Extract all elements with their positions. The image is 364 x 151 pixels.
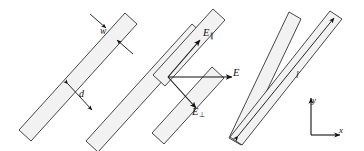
figure-canvas: [0, 0, 364, 151]
label-axis-x: x: [339, 126, 343, 135]
label-e-perpendicular: E⊥: [192, 107, 205, 119]
wire-grid-figure: w d l E∥ E E⊥ x y: [0, 0, 364, 151]
label-e-total: E: [233, 68, 239, 79]
label-gap: d: [79, 89, 84, 99]
label-length: l: [296, 71, 299, 81]
label-e-parallel-sub: ∥: [209, 32, 213, 40]
label-width: w: [100, 27, 106, 37]
label-e-parallel: E∥: [203, 28, 214, 40]
label-e-perpendicular-sub: ⊥: [198, 111, 204, 119]
label-axis-y: y: [312, 96, 316, 105]
